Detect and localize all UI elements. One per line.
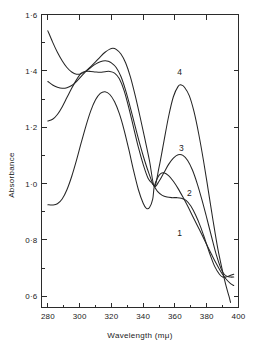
- x-tick-label: 280: [41, 312, 55, 321]
- y-tick-label: 0·6: [25, 292, 38, 301]
- spectrum-curve-4: [48, 31, 231, 303]
- spectra-curves: [48, 31, 234, 303]
- absorbance-spectra-chart: 280300320340360380400 0·60·81·01·21·41·6…: [0, 0, 271, 350]
- y-tick-label: 1·2: [25, 123, 38, 132]
- plot-frame: [42, 15, 239, 308]
- x-tick-label: 400: [232, 312, 246, 321]
- curve-label-3: 3: [179, 143, 184, 153]
- x-tick-label: 340: [136, 312, 150, 321]
- figure-container: 280300320340360380400 0·60·81·01·21·41·6…: [0, 0, 271, 350]
- x-axis-tick-labels: 280300320340360380400: [41, 312, 246, 321]
- curve-annotations: 1234: [177, 67, 192, 238]
- y-tick-label: 1·6: [25, 11, 38, 20]
- curve-label-2: 2: [187, 188, 192, 198]
- y-axis-title: Absorbance: [7, 152, 16, 198]
- frame-box: [42, 15, 239, 308]
- y-tick-label: 1·4: [25, 67, 38, 76]
- x-tick-label: 360: [168, 312, 182, 321]
- x-tick-label: 320: [104, 312, 118, 321]
- y-tick-label: 0·8: [25, 236, 38, 245]
- y-tick-label: 1·0: [25, 180, 38, 189]
- curve-label-1: 1: [177, 228, 182, 238]
- x-tick-label: 300: [73, 312, 87, 321]
- curve-label-4: 4: [177, 67, 182, 77]
- y-axis-tick-labels: 0·60·81·01·21·41·6: [25, 11, 38, 302]
- x-tick-label: 380: [200, 312, 214, 321]
- x-axis-title: Wavelength (mμ): [107, 331, 172, 340]
- spectrum-curve-3: [48, 61, 234, 277]
